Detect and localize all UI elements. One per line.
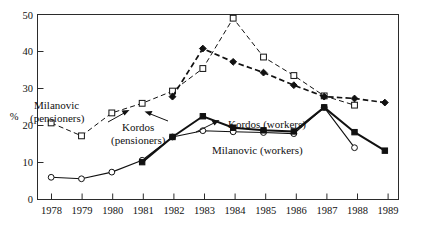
x-tick-label-1986: 1986 [286,205,307,216]
data-point [230,15,236,21]
chart-figure: 0 10 20 30 40 50 % 1978 1979 [0,0,422,240]
data-point [200,66,206,72]
x-tick-label-1985: 1985 [255,205,276,216]
y-tick-label-10: 10 [23,157,34,168]
data-point [261,54,267,60]
x-tick-label-1987: 1987 [316,205,337,216]
y-tick-label-30: 30 [23,83,34,94]
y-tick-label-40: 40 [23,46,34,57]
data-point [352,102,358,108]
x-tick-label-1980: 1980 [102,205,123,216]
annotation-kordos-workers: Kordos (workers) [228,118,306,131]
annotation-milanovic-pensioners-line1: Milanovic [34,99,79,111]
data-point [79,176,85,182]
y-axis-unit-label: % [10,111,19,122]
x-tick-label-1981: 1981 [133,205,154,216]
y-tick-label-0: 0 [28,194,33,205]
annotation-kordos-pensioners-line1: Kordos [122,121,154,133]
x-tick-label-1979: 1979 [72,205,93,216]
data-point [291,73,297,79]
data-point [48,174,54,180]
x-tick-label-1978: 1978 [41,205,62,216]
x-tick-label-1989: 1989 [378,205,399,216]
data-point [139,100,145,106]
data-point [382,148,387,153]
annotation-milanovic-workers: Milanovic (workers) [212,144,303,157]
data-point [109,169,115,175]
data-point [139,159,144,164]
data-point [79,133,85,139]
data-point [352,145,358,151]
x-tick-label-1984: 1984 [225,205,247,216]
data-point [170,134,175,139]
y-tick-label-50: 50 [23,10,34,21]
data-point [109,110,115,116]
x-tick-label-1983: 1983 [194,205,215,216]
annotation-milanovic-pensioners-line2: (pensioners) [30,112,85,125]
line-chart-svg: 0 10 20 30 40 50 % 1978 1979 [0,0,422,240]
x-tick-label-1982: 1982 [163,205,184,216]
data-point [200,114,205,119]
annotation-kordos-pensioners-line2: (pensioners) [111,134,166,147]
data-point [321,105,326,110]
data-point [352,129,357,134]
x-tick-label-1988: 1988 [347,205,368,216]
